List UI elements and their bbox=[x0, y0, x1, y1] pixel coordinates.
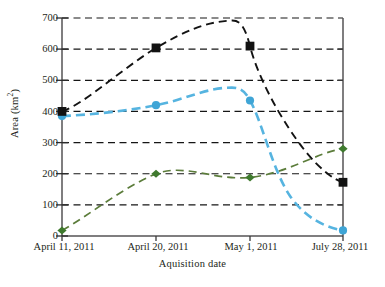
x-axis-tick-labels: April 11, 2011 April 20, 2011 May 1, 201… bbox=[0, 241, 385, 257]
x-tick-label-july-28: July 28, 2011 bbox=[312, 241, 369, 253]
axis-spines bbox=[62, 18, 343, 236]
series-olive-green-marker-3 bbox=[338, 145, 347, 153]
gridlines bbox=[62, 18, 343, 205]
series-olive-green-marker-0 bbox=[57, 226, 66, 234]
series-light-blue-marker-2 bbox=[246, 96, 254, 104]
chart-figure: Area (km2) 700 600 500 400 300 200 100 0 bbox=[0, 0, 385, 287]
series-black-line bbox=[62, 20, 343, 182]
series-olive-green-series bbox=[57, 145, 347, 235]
x-axis-title: Aquisition date bbox=[0, 258, 385, 269]
series-olive-green-marker-2 bbox=[245, 173, 254, 181]
x-tick-label-may-1: May 1, 2011 bbox=[225, 241, 278, 253]
series-light-blue-marker-1 bbox=[152, 101, 160, 109]
x-tick-label-april-11: April 11, 2011 bbox=[34, 241, 95, 253]
series-light-blue-marker-3 bbox=[339, 226, 347, 234]
series-olive-green-marker-1 bbox=[151, 170, 160, 178]
series-black-marker-1 bbox=[152, 44, 161, 53]
series-olive-green-line bbox=[62, 149, 343, 231]
series-black-marker-3 bbox=[339, 178, 348, 187]
series-black-marker-2 bbox=[246, 42, 255, 51]
x-tick-label-april-20: April 20, 2011 bbox=[127, 241, 188, 253]
series-black-marker-0 bbox=[58, 107, 67, 116]
series-light-blue-line bbox=[62, 88, 343, 231]
